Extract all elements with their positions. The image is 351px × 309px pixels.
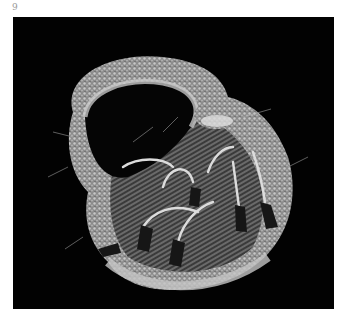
page-number: 9: [12, 2, 18, 12]
woven-basket-image: [13, 17, 334, 309]
photograph: [13, 17, 334, 309]
